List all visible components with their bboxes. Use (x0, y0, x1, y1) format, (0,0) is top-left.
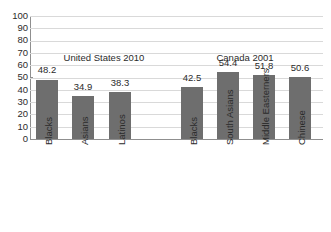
y-tick-label-60: 60 (2, 60, 28, 69)
y-tick-label-30: 30 (2, 97, 28, 106)
bar-chart: 100 90 80 70 60 50 40 30 20 10 0 United … (0, 0, 331, 232)
y-tick-label-10: 10 (2, 122, 28, 131)
bar-value-ca-chinese: 50.6 (281, 63, 319, 73)
category-label-us-latinos: Latinos (117, 114, 126, 145)
x-axis-baseline (30, 139, 323, 140)
bar-value-us-asians: 34.9 (64, 82, 102, 92)
y-tick-label-100: 100 (2, 11, 28, 20)
y-axis-tick-labels: 100 90 80 70 60 50 40 30 20 10 0 (0, 0, 28, 232)
y-tick-label-80: 80 (2, 35, 28, 44)
bar-value-ca-blacks: 42.5 (173, 73, 211, 83)
y-tick-label-20: 20 (2, 109, 28, 118)
y-tick-label-0: 0 (2, 134, 28, 143)
category-label-ca-chinese: Chinese (297, 110, 306, 145)
bar-value-us-latinos: 38.3 (101, 78, 139, 88)
gridline-80 (30, 41, 323, 42)
plot-area: United States 2010 Canada 2001 48.2 34.9… (30, 16, 323, 139)
y-tick-label-50: 50 (2, 72, 28, 81)
group-title-united-states: United States 2010 (44, 53, 164, 63)
category-label-ca-middle-easterners: Middle Easterners (261, 68, 270, 145)
category-label-us-blacks: Blacks (44, 117, 53, 145)
y-tick-label-90: 90 (2, 23, 28, 32)
category-label-us-asians: Asians (80, 116, 89, 145)
y-tick-label-70: 70 (2, 48, 28, 57)
bar-value-us-blacks: 48.2 (28, 65, 66, 75)
category-label-ca-blacks: Blacks (189, 117, 198, 145)
category-label-ca-south-asians: South Asians (225, 90, 234, 145)
y-tick-label-40: 40 (2, 85, 28, 94)
gridline-90 (30, 28, 323, 29)
gridline-100 (30, 16, 323, 17)
bar-value-ca-south-asians: 54.4 (209, 58, 247, 68)
